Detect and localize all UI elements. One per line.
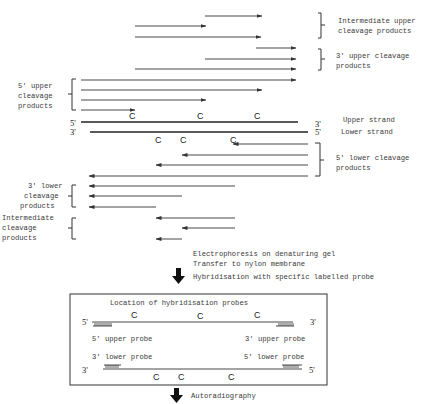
down-arrow-icon (172, 268, 185, 284)
step-transfer: Transfer to nylon membrane (193, 260, 305, 268)
cleavage-site-c: C (197, 111, 204, 121)
upper-strand-label: Upper strand (343, 116, 395, 124)
box-site-c: C (254, 310, 261, 320)
lower-strand-3prime: 3' (70, 127, 76, 137)
intermediate-lower-products (156, 218, 235, 239)
cleavage-diagram: Intermediate upper cleavage products 3' … (0, 0, 425, 404)
cleavage-site-c: C (129, 111, 136, 121)
lower-strand-label: Lower strand (341, 128, 393, 136)
label-five-upper-1: 5' upper (18, 82, 53, 90)
cleavage-site-c: C (230, 135, 237, 145)
probe-box-title: Location of hybridisation probes (110, 299, 248, 307)
label-intermediate-lower-2: cleavage (2, 224, 37, 232)
bracket-three-upper (318, 49, 325, 70)
five-lower-probe-hatch (282, 365, 302, 368)
lower-strand-5prime: 5' (315, 127, 321, 137)
step-electrophoresis: Electrophoresis on denaturing gel (193, 250, 335, 258)
cleavage-site-c: C (155, 135, 162, 145)
box-lower-3prime: 3' (82, 365, 88, 375)
box-site-c: C (197, 311, 204, 321)
label-intermediate-upper-1: Intermediate upper (338, 17, 416, 25)
box-site-c: C (131, 310, 138, 320)
label-three-lower-2: cleavage (24, 192, 59, 200)
label-five-lower-2: products (336, 164, 371, 172)
three-upper-probe-hatch (276, 323, 294, 326)
three-lower-products (89, 186, 235, 207)
five-lower-products (89, 144, 308, 176)
label-intermediate-lower-1: Intermediate (2, 214, 54, 222)
box-upper-3prime: 3' (310, 317, 316, 327)
box-upper-5prime: 5' (82, 317, 88, 327)
bracket-intermediate-upper (318, 13, 325, 38)
cleavage-site-c: C (254, 111, 261, 121)
label-five-upper-2: cleavage (18, 92, 53, 100)
label-five-upper-3: products (18, 102, 53, 110)
down-arrow-icon (170, 388, 183, 403)
label-three-upper-2: products (336, 62, 371, 70)
three-lower-probe-label: 3' lower probe (92, 353, 152, 361)
label-intermediate-lower-3: products (2, 234, 37, 242)
five-lower-probe-label: 5' lower probe (244, 353, 304, 361)
step-hybridisation: Hybridisation with specific labelled pro… (193, 273, 374, 281)
five-upper-probe-label: 5' upper probe (92, 335, 152, 343)
box-site-c: C (178, 372, 185, 382)
label-three-lower-1: 3' lower (28, 182, 63, 190)
five-upper-products (81, 80, 296, 110)
label-three-lower-3: products (20, 202, 55, 210)
three-lower-probe-hatch (104, 365, 121, 368)
box-site-c: C (228, 372, 235, 382)
bracket-intermediate-lower (68, 218, 76, 239)
bracket-three-lower (68, 185, 76, 207)
label-five-lower-1: 5' lower cleavage (336, 154, 409, 162)
label-intermediate-upper-2: cleavage products (338, 27, 411, 35)
box-site-c: C (153, 372, 160, 382)
box-lower-5prime: 5' (309, 365, 315, 375)
intermediate-upper-products (135, 16, 262, 37)
three-upper-probe-label: 3' upper probe (245, 335, 305, 343)
cleavage-site-c: C (180, 135, 187, 145)
five-upper-probe-hatch (93, 323, 112, 326)
three-upper-products (135, 48, 296, 69)
bracket-five-lower (315, 143, 324, 176)
step-autoradiography: Autoradiography (191, 392, 256, 400)
bracket-five-upper (68, 79, 76, 110)
label-three-upper-1: 3' upper cleavage (336, 52, 409, 60)
